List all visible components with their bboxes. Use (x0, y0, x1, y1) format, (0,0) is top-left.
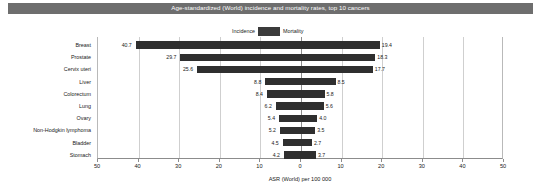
axis-tick-label: 10 (256, 162, 262, 170)
incidence-value-label: 8.8 (254, 78, 261, 86)
category-label: Non-Hodgkin lymphoma (33, 124, 91, 136)
incidence-bar (136, 41, 301, 48)
incidence-bar (283, 139, 301, 146)
incidence-value-label: 40.7 (122, 41, 132, 49)
category-label: Prostate (71, 51, 91, 63)
bar-row: 4.52.7 (98, 137, 502, 149)
mortality-bar (301, 102, 324, 109)
mortality-bar (301, 78, 336, 85)
axis-tick-label: 50 (94, 162, 100, 170)
mortality-bar (301, 90, 325, 97)
incidence-bar (265, 78, 301, 85)
category-axis-labels: BreastProstateCervix uteriLiverColorectu… (0, 37, 94, 159)
chart-container: Age-standardized (World) incidence and m… (0, 0, 541, 192)
legend-item-mortality: Mortality (283, 29, 303, 34)
incidence-value-label: 5.4 (268, 114, 275, 122)
mortality-value-label: 18.3 (377, 53, 387, 61)
incidence-value-label: 4.2 (273, 151, 280, 159)
mortality-value-label: 19.4 (382, 41, 392, 49)
axis-tick-label: 40 (134, 162, 140, 170)
incidence-bar (180, 54, 301, 61)
mortality-bar (301, 139, 312, 146)
axis-tick-label: 30 (175, 162, 181, 170)
category-label: Bladder (72, 137, 91, 149)
chart-title-bar: Age-standardized (World) incidence and m… (8, 3, 533, 14)
incidence-value-label: 6.2 (265, 102, 272, 110)
x-axis: 504030201001020304050 (97, 159, 503, 173)
incidence-bar (267, 90, 301, 97)
incidence-value-label: 25.6 (183, 65, 193, 73)
bar-rows: 40.719.429.718.325.617.78.88.58.45.86.25… (98, 37, 502, 158)
mortality-value-label: 3.5 (317, 126, 324, 134)
incidence-value-label: 29.7 (166, 53, 176, 61)
axis-tick-label: 30 (419, 162, 425, 170)
legend-item-incidence: Incidence (232, 29, 255, 34)
axis-tick-label: 0 (298, 162, 301, 170)
category-label: Lung (79, 100, 91, 112)
incidence-value-label: 5.2 (269, 126, 276, 134)
category-label: Liver (79, 76, 91, 88)
axis-tick-label: 50 (500, 162, 506, 170)
bar-row: 5.23.5 (98, 124, 502, 136)
bar-row: 6.25.6 (98, 100, 502, 112)
category-label: Ovary (77, 112, 91, 124)
legend-swatch-icon (258, 27, 280, 36)
bar-row: 40.719.4 (98, 39, 502, 51)
category-label: Stomach (70, 149, 91, 161)
axis-tick-label: 20 (378, 162, 384, 170)
bar-row: 8.45.8 (98, 88, 502, 100)
incidence-bar (197, 66, 301, 73)
mortality-value-label: 17.7 (375, 65, 385, 73)
bar-row: 8.88.5 (98, 76, 502, 88)
incidence-bar (279, 115, 301, 122)
incidence-value-label: 8.4 (256, 90, 263, 98)
axis-tick-label: 40 (459, 162, 465, 170)
mortality-value-label: 8.5 (338, 78, 345, 86)
axis-tick-label: 10 (337, 162, 343, 170)
mortality-bar (301, 66, 373, 73)
mortality-bar (301, 115, 317, 122)
incidence-bar (276, 102, 301, 109)
mortality-bar (301, 41, 380, 48)
bar-row: 5.44.0 (98, 112, 502, 124)
category-label: Breast (75, 39, 91, 51)
x-axis-title: ASR (World) per 100 000 (97, 175, 503, 183)
mortality-bar (301, 127, 315, 134)
page-title: Age-standardized (World) incidence and m… (171, 5, 369, 11)
category-label: Colorectum (63, 88, 91, 100)
category-label: Cervix uteri (64, 63, 91, 75)
incidence-bar (280, 127, 301, 134)
mortality-bar (301, 54, 375, 61)
mortality-value-label: 5.6 (326, 102, 333, 110)
mortality-value-label: 5.8 (327, 90, 334, 98)
incidence-value-label: 4.5 (272, 139, 279, 147)
mortality-value-label: 2.7 (314, 139, 321, 147)
plot-area: 40.719.429.718.325.617.78.88.58.45.86.25… (97, 37, 503, 159)
mortality-value-label: 3.7 (318, 151, 325, 159)
mortality-bar (301, 151, 316, 158)
bar-row: 29.718.3 (98, 51, 502, 63)
bar-row: 25.617.7 (98, 63, 502, 75)
chart-legend: Incidence Mortality (232, 26, 303, 37)
incidence-bar (284, 151, 301, 158)
mortality-value-label: 4.0 (319, 114, 326, 122)
axis-tick-label: 20 (216, 162, 222, 170)
